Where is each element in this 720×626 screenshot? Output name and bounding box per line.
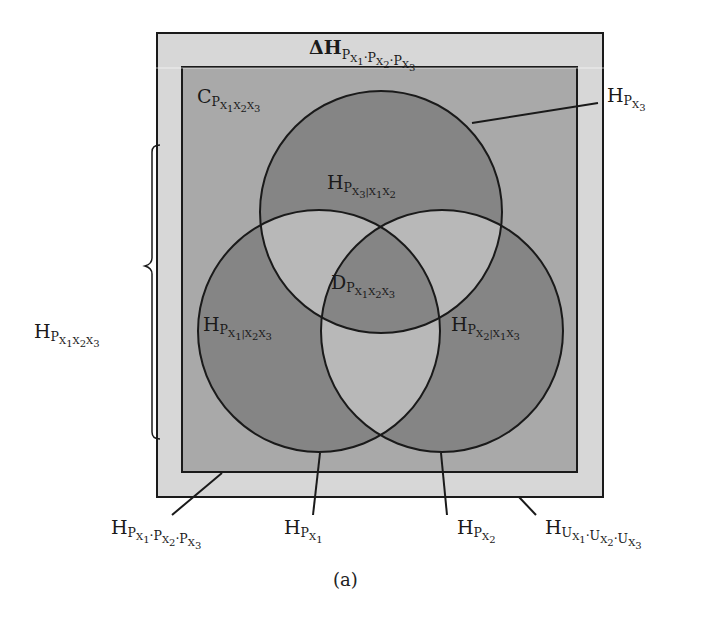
figure-caption: (a) — [333, 569, 358, 590]
venn-diagram: ΔHPX1·PX2·PX3 CPX1X2X3 HPX3 HPX3|X1X2 DP… — [0, 0, 720, 626]
label-h-uniform: HUX1·UX2·UX3 — [545, 516, 642, 551]
label-h-product: HPX1·PX2·PX3 — [111, 516, 201, 551]
label-h-px2: HPX2 — [457, 516, 496, 545]
label-h-px1: HPX1 — [284, 516, 323, 545]
label-h-joint: HPX1X2X3 — [34, 320, 100, 349]
label-h-px3: HPX3 — [607, 84, 646, 113]
leader-h-uniform — [519, 497, 536, 515]
